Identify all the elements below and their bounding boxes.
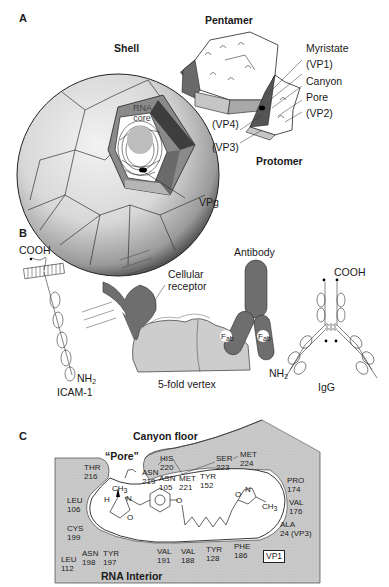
- igg-nh2-label: NH2: [269, 367, 288, 383]
- callout-vpg: VPg: [199, 196, 219, 208]
- residue-label: THR216: [84, 463, 100, 481]
- residue-label: ASN198: [82, 549, 98, 567]
- pentamer-title: Pentamer: [205, 14, 253, 26]
- igg-label: IgG: [318, 381, 335, 393]
- icam-cooh-label: COOH: [19, 244, 51, 256]
- residue-label: MET221: [179, 474, 196, 492]
- callout-vp3: (VP3): [212, 141, 239, 153]
- residue-label: PRO174: [287, 476, 304, 494]
- atom-o-link: O: [176, 496, 182, 505]
- residue-label: HIS220: [160, 454, 173, 472]
- protomer-title: Protomer: [256, 155, 303, 167]
- residue-label: TYR152: [200, 472, 216, 490]
- pore-label: “Pore”: [105, 450, 139, 462]
- residue-label: CYS199: [67, 524, 83, 542]
- residue-label: VAL191: [157, 547, 172, 565]
- panel-label-c: C: [19, 430, 27, 442]
- residue-label: MET224: [240, 450, 257, 468]
- atom-ch3-right: CH3: [262, 502, 277, 513]
- rna-core-label: RNA core: [133, 103, 151, 123]
- residue-label: ASN105: [159, 474, 175, 492]
- figure-artwork: [0, 0, 389, 587]
- panel-label-a: A: [19, 12, 27, 24]
- fab-label-right: Fab: [258, 331, 271, 345]
- icam-1-label: ICAM-1: [57, 386, 93, 398]
- atom-n: N: [126, 494, 132, 503]
- callout-vp4: (VP4): [212, 118, 239, 130]
- antibody-label: Antibody: [234, 246, 275, 258]
- rna-interior-label: RNA Interior: [101, 570, 162, 582]
- callout-canyon: Canyon: [306, 75, 342, 87]
- panel-label-b: B: [19, 227, 27, 239]
- residue-label: TYR197: [103, 549, 119, 567]
- callout-vp1: (VP1): [306, 58, 333, 70]
- vp1-box: VP1: [263, 550, 285, 563]
- atom-isoxazole-o: O: [235, 490, 241, 499]
- residue-label: VAL176: [289, 498, 304, 516]
- residue-label: LEU106: [67, 496, 83, 514]
- fab-label-left: Fab: [221, 331, 234, 345]
- residue-label: ASN219: [142, 468, 158, 486]
- canyon-floor-label: Canyon floor: [133, 430, 198, 442]
- icam-1-drawing: [23, 257, 75, 381]
- shell-title: Shell: [114, 42, 139, 54]
- callout-pore: Pore: [306, 91, 328, 103]
- cellular-receptor-label: Cellular receptor: [168, 268, 207, 292]
- residue-label: ALA24 (VP3): [280, 520, 312, 538]
- igg-cooh-label: COOH: [334, 266, 366, 278]
- residue-label: TYR128: [206, 545, 222, 563]
- residue-label: SER223: [216, 454, 232, 472]
- residue-label: PHE186: [234, 542, 250, 560]
- residue-label: VAL188: [181, 547, 196, 565]
- igg-drawing: [285, 279, 377, 378]
- residue-label: LEU112: [61, 555, 77, 573]
- callout-myristate: Myristate: [306, 42, 349, 54]
- five-fold-vertex-label: 5-fold vertex: [158, 378, 216, 390]
- callout-vp2: (VP2): [306, 107, 333, 119]
- atom-h: H: [104, 495, 110, 504]
- atom-o-ring: O: [127, 513, 133, 522]
- atom-isoxazole-n: N: [245, 485, 251, 494]
